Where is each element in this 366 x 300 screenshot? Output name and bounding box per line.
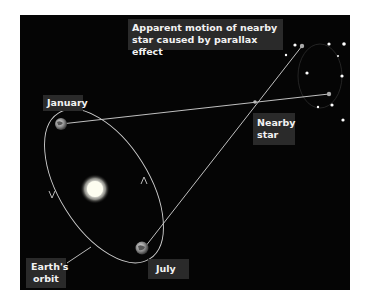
earths-orbit-label: Earth's orbit	[26, 258, 66, 288]
apparent-motion-label: Apparent motion of nearby star caused by…	[128, 19, 283, 50]
star-icon	[253, 100, 257, 104]
apparent-star-position	[327, 92, 331, 96]
orbit-arrow-icon	[141, 177, 147, 184]
july-label: July	[148, 259, 189, 279]
orbit-pointer-line	[67, 247, 91, 263]
earth-icon	[136, 242, 149, 255]
apparent-motion-path	[298, 44, 342, 108]
nearby-star-label: Nearby star	[253, 113, 295, 145]
apparent-star-position	[300, 44, 304, 48]
earth-icon	[55, 118, 67, 130]
sight-line-july	[145, 46, 302, 247]
orbit-arrow-icon	[49, 191, 55, 198]
january-label: January	[43, 95, 83, 111]
sun-core	[87, 181, 103, 197]
background-stars	[285, 42, 346, 121]
